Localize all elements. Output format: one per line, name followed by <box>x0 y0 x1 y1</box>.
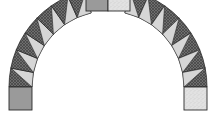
bottom-right-square <box>184 87 207 110</box>
top-left-square <box>86 0 108 11</box>
arch-segments <box>9 0 207 87</box>
top-right-square <box>108 0 130 11</box>
quilt-arch-diagram <box>0 0 216 121</box>
bottom-left-square <box>9 87 32 110</box>
